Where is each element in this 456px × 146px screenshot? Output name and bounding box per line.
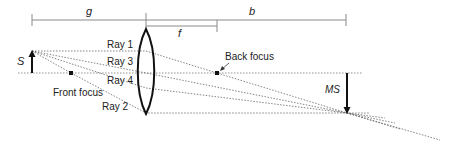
ray-diagram-canvas bbox=[0, 0, 456, 146]
label-back-focus: Back focus bbox=[225, 52, 274, 62]
label-ray-3: Ray 3 bbox=[107, 57, 133, 67]
lens-icon bbox=[138, 29, 155, 114]
label-ray-2: Ray 2 bbox=[102, 102, 128, 112]
dimension-lines bbox=[32, 13, 346, 32]
label-ray-1: Ray 1 bbox=[107, 40, 133, 50]
label-b: b bbox=[249, 6, 255, 17]
label-image-size: MS bbox=[325, 85, 340, 95]
label-f: f bbox=[178, 28, 181, 39]
back-focus-pointer-icon bbox=[220, 63, 229, 71]
image-arrow-icon bbox=[344, 73, 351, 114]
object-arrow-icon bbox=[29, 50, 36, 73]
ray-extension bbox=[347, 113, 440, 140]
label-g: g bbox=[86, 6, 92, 17]
label-ray-4: Ray 4 bbox=[107, 76, 133, 86]
front-focus-point bbox=[69, 71, 73, 75]
back-focus-point bbox=[215, 71, 219, 75]
label-front-focus: Front focus bbox=[53, 88, 103, 98]
ray-2-path bbox=[32, 51, 370, 113]
label-object-size: S bbox=[17, 56, 24, 67]
